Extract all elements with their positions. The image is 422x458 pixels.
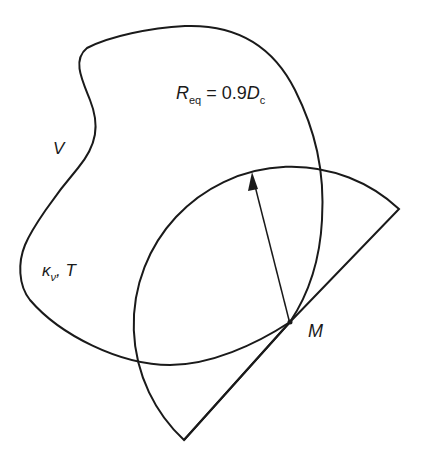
temperature-symbol: T xyxy=(65,261,75,280)
volume-label: V xyxy=(53,140,64,157)
diagram-svg xyxy=(0,0,422,458)
point-m-marker xyxy=(288,320,293,325)
kappa-symbol: κ xyxy=(42,261,51,280)
volume-symbol: V xyxy=(53,139,64,158)
equals-sign: = xyxy=(206,83,217,103)
gas-volume-outline xyxy=(20,26,322,365)
kappa-subscript: ν xyxy=(51,271,57,283)
equivalent-hemisphere-sector xyxy=(134,167,399,440)
point-symbol: M xyxy=(308,321,323,341)
diagram-canvas: V κν, T Req = 0.9Dc M xyxy=(0,0,422,458)
point-m-label: M xyxy=(308,322,323,340)
equivalent-radius-label: Req = 0.9Dc xyxy=(176,84,265,102)
diameter-subscript: c xyxy=(260,94,266,106)
absorption-temperature-label: κν, T xyxy=(42,262,76,279)
diameter-symbol: D xyxy=(247,83,260,103)
separator: , xyxy=(56,261,61,280)
radius-arrow-shaft xyxy=(255,186,289,320)
radius-symbol: R xyxy=(176,83,189,103)
tangent-line xyxy=(184,322,290,440)
radius-subscript: eq xyxy=(189,94,201,106)
arrow-head-icon xyxy=(248,172,258,191)
coefficient: 0.9 xyxy=(222,83,247,103)
